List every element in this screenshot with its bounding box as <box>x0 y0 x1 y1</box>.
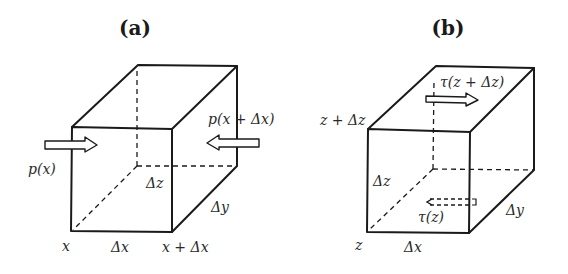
label-dz: Δz <box>372 173 391 189</box>
label-z: z <box>354 237 363 253</box>
label-dy: Δy <box>210 199 230 215</box>
label-z-plus-dz: z + Δz <box>319 112 366 128</box>
label-p-x-plus-dx: p(x + Δx) <box>208 111 274 127</box>
label-dz: Δz <box>145 175 164 191</box>
label-p-x: p(x) <box>28 161 56 177</box>
panel-b: (b) τ(z + Δz) z + Δz Δz τ(z) Δy z Δx <box>319 16 534 255</box>
panel-a-label: (a) <box>119 16 151 40</box>
label-x: x <box>62 238 70 254</box>
right-face <box>469 68 534 233</box>
figure-canvas: (a) p(x) p(x + Δx) Δz Δy x Δx x + Δx (b) <box>0 0 568 274</box>
label-tau-z-plus-dz: τ(z + Δz) <box>440 74 504 90</box>
panel-b-label: (b) <box>432 16 465 40</box>
hidden-edge-vertical <box>433 80 434 169</box>
label-dy: Δy <box>505 202 525 218</box>
label-dx: Δx <box>403 239 422 255</box>
label-tau-z: τ(z) <box>418 209 444 225</box>
label-x-plus-dx: x + Δx <box>162 239 209 255</box>
panel-a: (a) p(x) p(x + Δx) Δz Δy x Δx x + Δx <box>28 16 274 255</box>
hidden-edge-horizontal <box>433 169 534 170</box>
hidden-edge-depth <box>73 166 137 230</box>
label-dx: Δx <box>110 239 129 255</box>
arrow-left-icon <box>207 135 259 150</box>
